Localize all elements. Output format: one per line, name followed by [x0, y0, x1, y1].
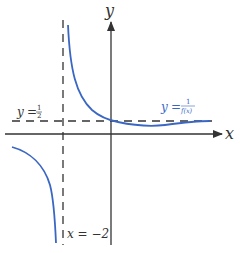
curve-left-branch: [12, 147, 56, 243]
curve-label: y = 1 f(x): [160, 98, 195, 115]
svg-text:f(x): f(x): [180, 107, 193, 115]
vertical-asymptote-label: x = −2: [67, 227, 109, 241]
y-axis-label: y: [104, 1, 115, 20]
x-axis-label: x: [225, 124, 234, 143]
svg-text:1: 1: [37, 104, 41, 112]
chart-canvas: y x y = 1 2 y = 1 f(x) x = −2: [0, 0, 240, 253]
svg-text:1: 1: [186, 98, 190, 106]
svg-text:y: y: [160, 100, 168, 114]
svg-text:y: y: [16, 105, 24, 119]
svg-text:=: =: [27, 105, 37, 119]
horizontal-asymptote-label: y = 1 2: [16, 104, 42, 120]
svg-text:=: =: [171, 100, 181, 114]
svg-text:2: 2: [37, 112, 41, 120]
